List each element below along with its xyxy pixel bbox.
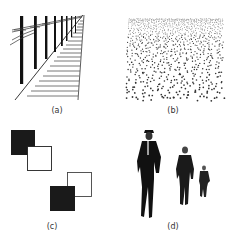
caption-a: (a) (42, 106, 72, 115)
white-square-front-top (28, 147, 52, 171)
caption-d: (d) (158, 222, 188, 231)
black-square-front-bottom (50, 186, 75, 211)
railway-perspective-illustration (0, 0, 113, 117)
caption-b: (b) (158, 106, 188, 115)
dot-texture-gradient-illustration (113, 0, 227, 117)
caption-c: (c) (37, 222, 67, 231)
man-medium (176, 147, 194, 206)
panel-b-texture-gradient: (b) (113, 0, 227, 117)
man-small (199, 166, 210, 197)
overlapping-squares-illustration (0, 117, 113, 235)
panel-c-interposition: (c) (0, 117, 113, 235)
walking-men-illustration (113, 117, 227, 235)
man-large (137, 130, 161, 218)
panel-d-relative-size: (d) (113, 117, 227, 235)
panel-a-railway: (a) (0, 0, 113, 117)
